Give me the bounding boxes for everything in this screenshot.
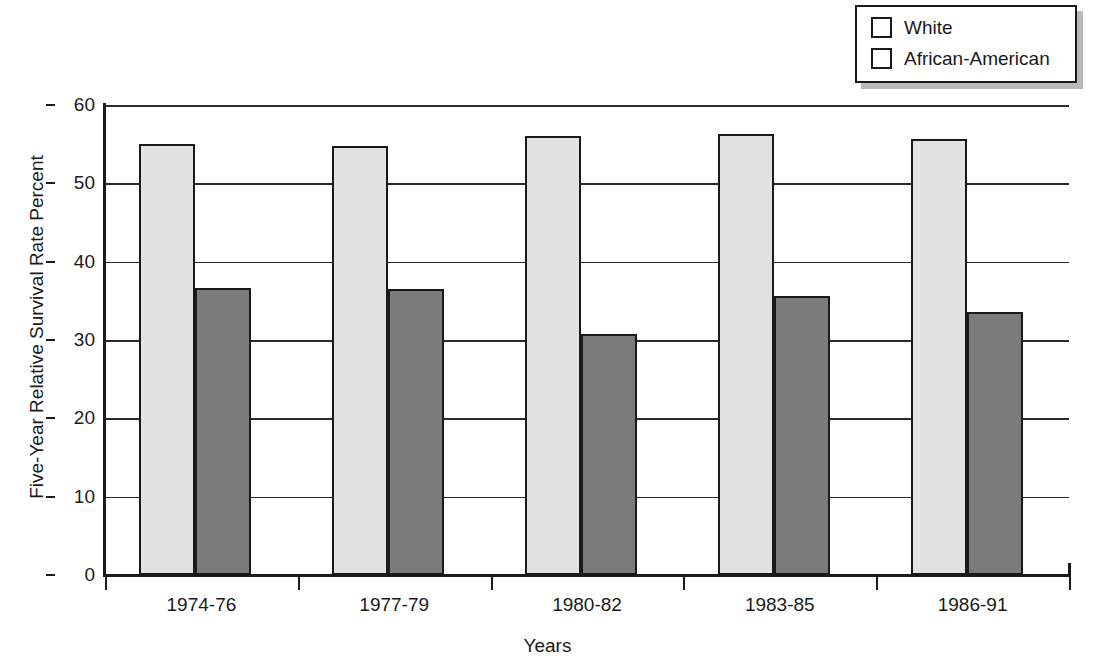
y-tick-mark [46, 574, 55, 576]
y-tick-mark [46, 339, 55, 341]
y-tick-label: 10 [74, 487, 95, 506]
y-tick-label: 40 [74, 252, 95, 271]
y-tick-mark [46, 417, 55, 419]
x-axis-title: Years [0, 635, 1095, 657]
x-tick-mark [105, 577, 107, 590]
x-category-label-1977-79: 1977-79 [298, 594, 491, 616]
x-category-label-1983-85: 1983-85 [683, 594, 876, 616]
x-category-label-1986-91: 1986-91 [876, 594, 1069, 616]
bar-white-1977-79 [332, 146, 388, 575]
y-tick-label: 60 [74, 95, 95, 114]
y-tick-label: 50 [74, 173, 95, 192]
x-tick-mark [298, 577, 300, 590]
legend-swatch-african-american [871, 48, 892, 69]
y-tick-mark [46, 496, 55, 498]
bar-white-1974-76 [139, 144, 195, 575]
legend-label-white: White [904, 17, 953, 38]
bar-african-american-1980-82 [581, 334, 637, 575]
legend-label-african-american: African-American [904, 48, 1050, 69]
legend-swatch-white [871, 17, 892, 38]
bar-white-1986-91 [911, 139, 967, 575]
legend-item-white: White [871, 17, 953, 38]
x-tick-mark [876, 577, 878, 590]
x-category-label-1980-82: 1980-82 [491, 594, 684, 616]
bar-african-american-1983-85 [774, 296, 830, 575]
chart-legend: White African-American [855, 5, 1077, 83]
bar-series-layer [105, 105, 1069, 575]
y-tick-mark [46, 104, 55, 106]
x-tick-mark [683, 577, 685, 590]
x-category-label-1974-76: 1974-76 [105, 594, 298, 616]
legend-item-african-american: African-American [871, 48, 1050, 69]
y-tick-label: 20 [74, 408, 95, 427]
y-tick-label: 0 [84, 565, 95, 584]
x-tick-mark [491, 577, 493, 590]
bar-white-1980-82 [525, 136, 581, 575]
bar-white-1983-85 [718, 134, 774, 575]
bar-african-american-1974-76 [195, 288, 251, 575]
y-tick-label: 30 [74, 330, 95, 349]
y-axis-ticks: 0102030405060 [55, 105, 95, 575]
y-tick-mark [46, 261, 55, 263]
bar-chart: White African-American Five-Year Relativ… [0, 0, 1095, 669]
bar-african-american-1977-79 [388, 289, 444, 575]
y-axis-title: Five-Year Relative Survival Rate Percent [26, 112, 48, 542]
bar-african-american-1986-91 [967, 312, 1023, 575]
y-tick-mark [46, 182, 55, 184]
x-tick-mark [1069, 577, 1071, 590]
